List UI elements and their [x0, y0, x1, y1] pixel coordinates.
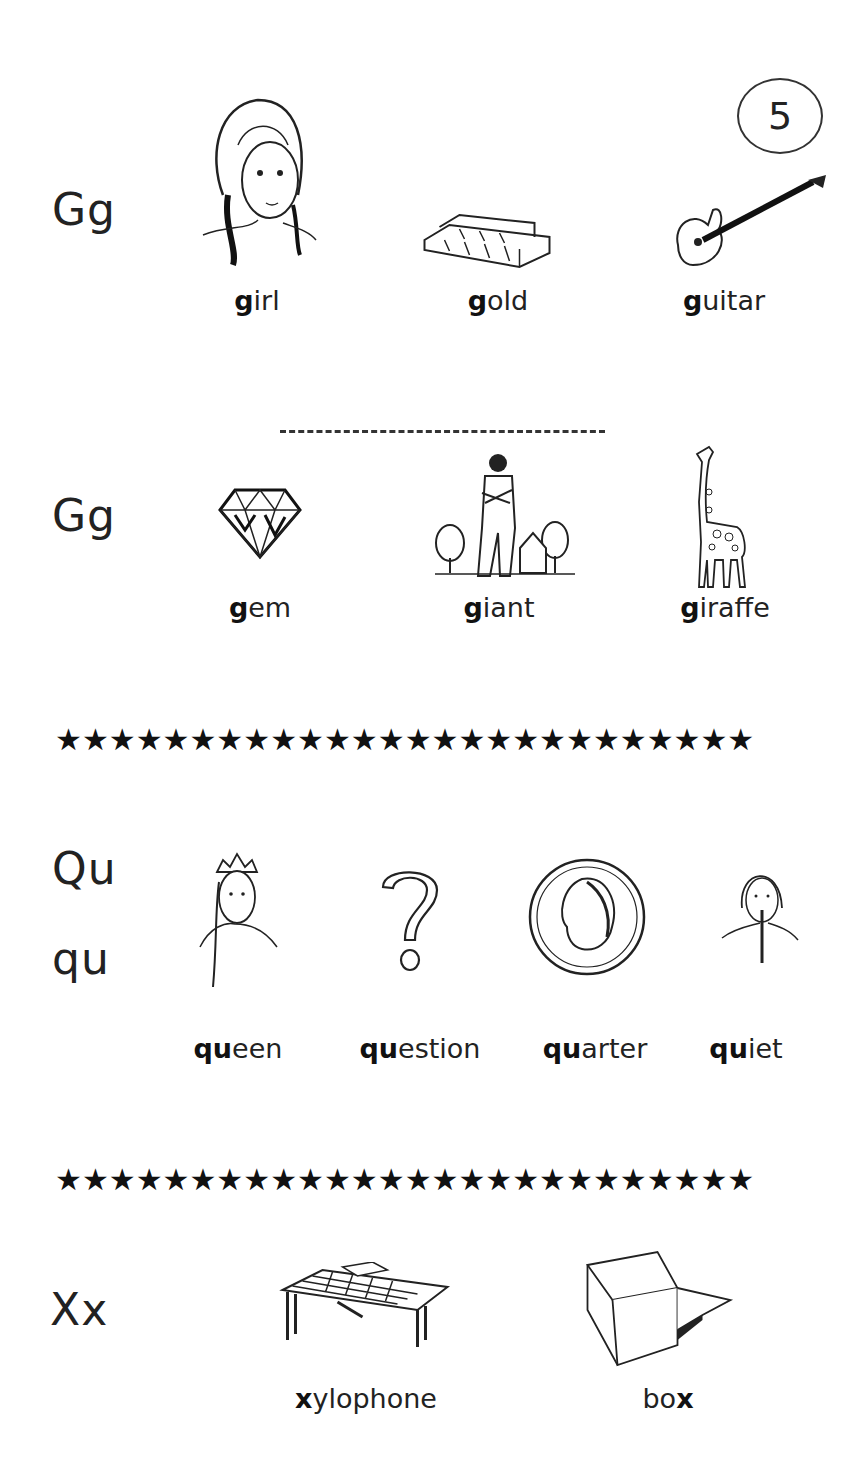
- word-rest-part: estion: [398, 1033, 480, 1064]
- queen-icon: [195, 852, 285, 992]
- word-bold-part: qu: [709, 1033, 748, 1064]
- guitar-icon: [668, 170, 828, 270]
- word-bold-part: g: [683, 285, 702, 316]
- word-bold-part: x: [295, 1383, 312, 1414]
- word-bold-part: g: [234, 285, 253, 316]
- question-mark-icon: [375, 862, 445, 977]
- giraffe-icon: [687, 442, 757, 592]
- page-number: 5: [737, 78, 823, 154]
- word-prefix-part: bo: [642, 1383, 676, 1414]
- letter-heading-g-hard: Gg: [52, 184, 116, 235]
- word-gem: gem: [229, 592, 291, 623]
- word-rest-part: em: [248, 592, 291, 623]
- word-bold-part: g: [680, 592, 699, 623]
- giant-icon: [430, 448, 580, 588]
- girl-icon: [198, 85, 318, 270]
- gold-bars-icon: [420, 205, 555, 270]
- word-rest-part: een: [232, 1033, 282, 1064]
- word-bold-part: g: [229, 592, 248, 623]
- word-gold: gold: [468, 285, 529, 316]
- word-quiet: quiet: [709, 1033, 782, 1064]
- gem-icon: [215, 485, 305, 560]
- word-bold-part: qu: [194, 1033, 233, 1064]
- word-rest-part: arter: [581, 1033, 647, 1064]
- letter-heading-x: Xx: [50, 1284, 108, 1335]
- word-bold-part: g: [468, 285, 487, 316]
- word-rest-part: iant: [483, 592, 535, 623]
- star-divider: ★★★★★★★★★★★★★★★★★★★★★★★★★★: [55, 1165, 815, 1195]
- dashed-separator: [280, 430, 605, 433]
- word-bold-part: qu: [360, 1033, 399, 1064]
- box-icon: [583, 1250, 738, 1370]
- quiet-icon: [720, 858, 800, 973]
- word-giraffe: giraffe: [680, 592, 770, 623]
- word-question: question: [360, 1033, 481, 1064]
- word-bold-part: x: [676, 1383, 693, 1414]
- xylophone-icon: [278, 1262, 453, 1347]
- word-bold-part: qu: [543, 1033, 582, 1064]
- word-rest-part: iet: [748, 1033, 783, 1064]
- page-number-text: 5: [768, 94, 792, 138]
- word-xylophone: xylophone: [295, 1383, 437, 1414]
- star-divider: ★★★★★★★★★★★★★★★★★★★★★★★★★★: [55, 725, 815, 755]
- letter-heading-qu-lower: qu: [52, 933, 110, 984]
- word-rest-part: ylophone: [312, 1383, 437, 1414]
- word-girl: girl: [234, 285, 279, 316]
- word-queen: queen: [194, 1033, 283, 1064]
- word-guitar: guitar: [683, 285, 765, 316]
- word-rest-part: uitar: [702, 285, 765, 316]
- letter-heading-qu-upper: Qu: [52, 843, 117, 894]
- word-quarter: quarter: [543, 1033, 648, 1064]
- word-giant: giant: [463, 592, 534, 623]
- quarter-coin-icon: [527, 857, 647, 977]
- word-rest-part: iraffe: [699, 592, 769, 623]
- letter-heading-g-soft: Gg: [52, 490, 116, 541]
- word-bold-part: g: [463, 592, 482, 623]
- word-rest-part: irl: [254, 285, 280, 316]
- word-box: box: [642, 1383, 693, 1414]
- word-rest-part: old: [487, 285, 528, 316]
